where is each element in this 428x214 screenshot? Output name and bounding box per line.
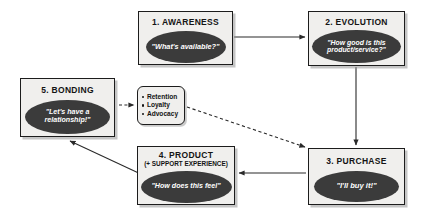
edge-product-to-bonding [70,141,145,176]
edge-benefits-to-purchase [187,107,305,147]
benefit-label: Advocacy [147,110,178,118]
node-product-subtitle: (+ SUPPORT EXPERIENCE) [144,161,228,168]
node-bonding-title: 5. BONDING [41,86,94,95]
node-purchase-quote: "I'll buy it!" [314,171,399,202]
benefit-label: Loyalty [147,101,170,109]
node-evolution[interactable]: 2. EVOLUTION "How good is this product/s… [308,11,405,66]
node-bonding[interactable]: 5. BONDING "Let's have a relationship!" [20,78,115,137]
list-item: Loyalty [142,101,184,109]
diagram-canvas: 1. AWARENESS "What's available?" 2. EVOL… [0,0,428,214]
node-awareness-quote: "What's available?" [146,31,226,63]
node-product-title: 4. PRODUCT [159,151,213,160]
bullet-dot-icon [142,96,144,98]
node-purchase-title: 3. PURCHASE [326,157,386,166]
list-item: Retention [142,93,184,101]
node-bonding-quote: "Let's have a relationship!" [25,100,110,134]
node-awareness[interactable]: 1. AWARENESS "What's available?" [138,11,233,65]
benefit-label: Retention [147,93,177,101]
node-evolution-title: 2. EVOLUTION [325,18,388,27]
list-item: Advocacy [142,110,184,118]
node-awareness-title: 1. AWARENESS [152,18,219,27]
bullet-dot-icon [142,113,144,115]
node-product[interactable]: 4. PRODUCT (+ SUPPORT EXPERIENCE) "How d… [137,146,235,205]
node-purchase[interactable]: 3. PURCHASE "I'll buy it!" [308,148,405,205]
node-product-quote: "How does this feel" [141,171,232,203]
node-benefits-list[interactable]: Retention Loyalty Advocacy [137,86,185,125]
node-evolution-quote: "How good is this product/service?" [312,30,401,63]
bullet-dot-icon [142,104,144,106]
